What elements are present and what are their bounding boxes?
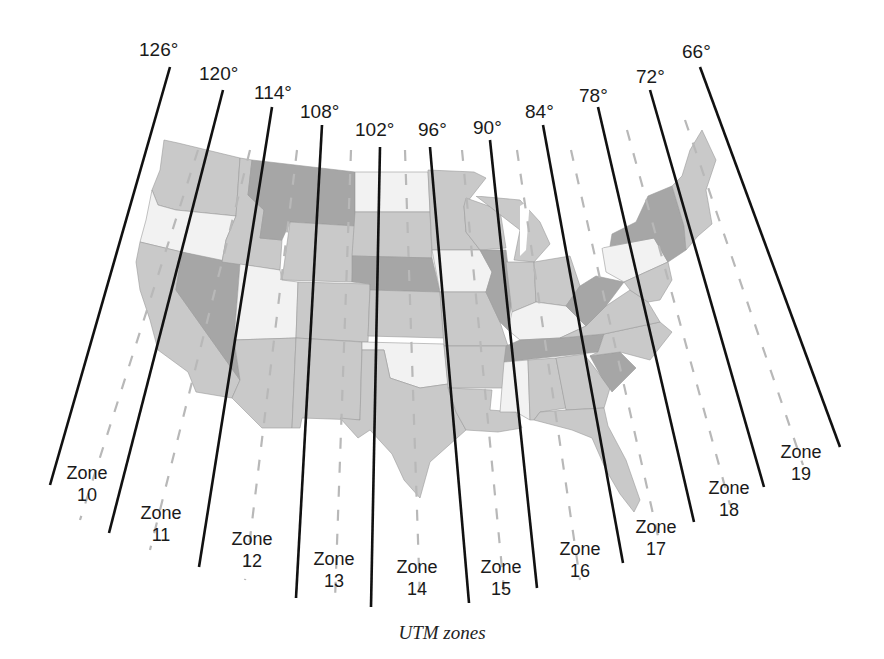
- state-new-mexico: [292, 338, 362, 428]
- us-states-layer: [136, 130, 716, 512]
- utm-zone-map: 126°120°114°108°102°96°90°84°78°72°66° Z…: [0, 0, 884, 659]
- zone-name: Zone: [396, 557, 437, 577]
- longitude-label: 108°: [300, 101, 339, 122]
- state-north-dakota: [355, 172, 430, 212]
- zone-name: Zone: [559, 539, 600, 559]
- zone-labels: Zone10Zone11Zone12Zone13Zone14Zone15Zone…: [66, 442, 821, 599]
- state-arkansas: [444, 346, 508, 388]
- state-colorado: [296, 282, 370, 342]
- longitude-label: 84°: [525, 101, 554, 122]
- state-wyoming: [282, 222, 355, 282]
- zone-number: 14: [407, 579, 427, 599]
- zone-name: Zone: [140, 503, 181, 523]
- longitude-label: 66°: [682, 41, 711, 62]
- zone-name: Zone: [480, 557, 521, 577]
- zone-number: 12: [242, 551, 262, 571]
- longitude-labels: 126°120°114°108°102°96°90°84°78°72°66°: [139, 39, 711, 140]
- zone-number: 18: [719, 500, 739, 520]
- zone-number: 11: [152, 525, 171, 545]
- zone-name: Zone: [780, 442, 821, 462]
- zone-number: 10: [77, 485, 97, 505]
- zone-number: 13: [324, 571, 344, 591]
- zone-number: 17: [646, 539, 666, 559]
- longitude-label: 114°: [254, 82, 292, 103]
- map-caption: UTM zones: [0, 622, 884, 644]
- longitude-label: 102°: [355, 119, 394, 140]
- zone-number: 15: [491, 579, 511, 599]
- zone-name: Zone: [313, 549, 354, 569]
- meridian-line: [700, 67, 840, 447]
- state-kansas: [368, 290, 444, 338]
- zone-name: Zone: [231, 529, 272, 549]
- longitude-label: 72°: [636, 66, 665, 87]
- longitude-label: 126°: [139, 39, 178, 60]
- zone-name: Zone: [708, 478, 749, 498]
- us-map-canvas: 126°120°114°108°102°96°90°84°78°72°66° Z…: [0, 0, 884, 659]
- longitude-label: 90°: [473, 117, 502, 138]
- zone-number: 16: [570, 561, 590, 581]
- state-south-dakota: [352, 212, 432, 258]
- zone-name: Zone: [66, 463, 107, 483]
- longitude-label: 78°: [579, 85, 608, 106]
- state-washington: [152, 140, 240, 216]
- zone-name: Zone: [635, 517, 676, 537]
- state-florida: [534, 408, 640, 512]
- longitude-label: 120°: [199, 63, 238, 84]
- zone-number: 19: [791, 464, 811, 484]
- longitude-label: 96°: [418, 119, 447, 140]
